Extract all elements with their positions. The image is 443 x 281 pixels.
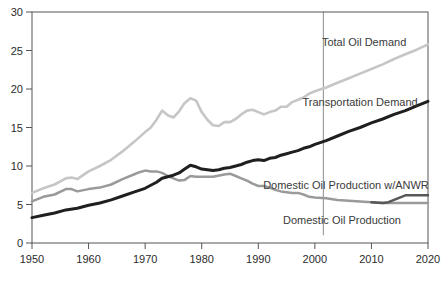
x-axis-tick-label: 1970 xyxy=(133,253,157,265)
x-axis-tick-label: 1960 xyxy=(76,253,100,265)
x-axis-tick-label: 1990 xyxy=(246,253,270,265)
chart-canvas: 0510152025301950196019701980199020002010… xyxy=(0,0,443,281)
x-axis-tick-label: 2020 xyxy=(416,253,440,265)
series-label-domestic-oil-production-w-anwr: Domestic Oil Production w/ANWR xyxy=(263,179,429,191)
x-axis-tick-label: 2000 xyxy=(303,253,327,265)
y-axis-tick-label: 15 xyxy=(11,122,23,134)
series-label-total-oil-demand: Total Oil Demand xyxy=(322,36,406,48)
y-axis-tick-label: 20 xyxy=(11,83,23,95)
x-axis-tick-label: 2010 xyxy=(359,253,383,265)
x-axis-tick-label: 1980 xyxy=(189,253,213,265)
series-label-transportation-demand: Transportation Demand xyxy=(303,96,418,108)
y-axis-tick-label: 10 xyxy=(11,160,23,172)
y-axis-tick-label: 30 xyxy=(11,6,23,18)
y-axis-tick-label: 5 xyxy=(17,199,23,211)
y-axis-tick-label: 0 xyxy=(17,237,23,249)
oil-demand-production-chart: 0510152025301950196019701980199020002010… xyxy=(0,0,443,281)
x-axis-tick-label: 1950 xyxy=(20,253,44,265)
y-axis-tick-label: 25 xyxy=(11,45,23,57)
series-label-domestic-oil-production: Domestic Oil Production xyxy=(283,214,401,226)
